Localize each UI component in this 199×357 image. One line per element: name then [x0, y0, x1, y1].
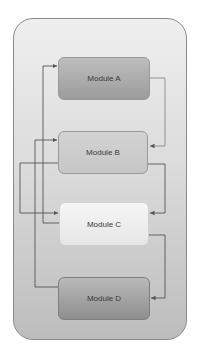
connector-c-to-a [43, 66, 59, 223]
module-d[interactable]: Module D [58, 277, 150, 320]
connector-b-to-c [148, 164, 165, 213]
module-b-label: Module B [86, 148, 120, 157]
module-b[interactable]: Module B [58, 131, 148, 174]
connector-a-to-b [150, 78, 165, 146]
connector-b-to-c-left [20, 163, 58, 213]
module-c[interactable]: Module C [59, 202, 149, 246]
module-a-label: Module A [87, 74, 120, 83]
module-d-label: Module D [87, 294, 121, 303]
connector-d-to-b [35, 140, 58, 287]
connector-c-to-d [149, 235, 165, 298]
module-a[interactable]: Module A [58, 57, 150, 100]
module-c-label: Module C [87, 220, 121, 229]
